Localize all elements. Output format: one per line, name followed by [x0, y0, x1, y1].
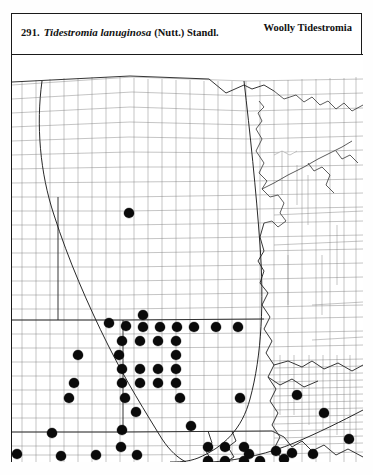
map-canvas: [12, 55, 363, 462]
occurrence-dot: [175, 393, 185, 403]
occurrence-dot: [121, 321, 131, 331]
occurrence-dot: [308, 449, 318, 459]
occurrence-dot: [220, 442, 230, 452]
occurrence-dot: [117, 378, 127, 388]
occurrence-dot: [153, 364, 163, 374]
occurrence-dots: [12, 208, 354, 462]
occurrence-dot: [114, 350, 124, 360]
occurrence-dot: [186, 421, 196, 431]
occurrence-dot: [64, 393, 74, 403]
page-frame: 291.Tidestromia lanuginosa(Nutt.) Standl…: [11, 13, 362, 462]
occurrence-dot: [117, 364, 127, 374]
occurrence-dot: [203, 442, 213, 452]
occurrence-dot: [203, 456, 213, 462]
occurrence-dot: [12, 449, 22, 459]
occurrence-dot: [153, 378, 163, 388]
occurrence-dot: [255, 456, 265, 462]
occurrence-dot: [138, 310, 148, 320]
occurrence-dot: [104, 318, 114, 328]
name-authority: (Nutt.) Standl.: [154, 27, 218, 38]
entry-number: 291.: [21, 27, 40, 38]
occurrence-dot: [132, 450, 142, 460]
occurrence-dot: [135, 378, 145, 388]
occurrence-dot: [319, 408, 329, 418]
atlas-page: 291.Tidestromia lanuginosa(Nutt.) Standl…: [0, 0, 373, 475]
occurrence-dot: [220, 456, 230, 462]
occurrence-dot: [138, 322, 148, 332]
occurrence-dot: [135, 364, 145, 374]
scientific-name: Tidestromia lanuginosa: [44, 26, 151, 38]
occurrence-dot: [124, 208, 134, 218]
occurrence-dot: [116, 442, 126, 452]
occurrence-dot: [155, 322, 165, 332]
occurrence-dot: [211, 322, 221, 332]
occurrence-dot: [235, 393, 245, 403]
occurrence-dot: [47, 428, 57, 438]
occurrence-dot: [271, 446, 281, 456]
occurrence-dot: [135, 336, 145, 346]
occurrence-dot: [117, 425, 127, 435]
occurrence-dot: [56, 451, 66, 461]
occurrence-dot: [287, 448, 297, 458]
occurrence-dot: [131, 407, 141, 417]
common-name: Woolly Tidestromia: [264, 22, 352, 33]
occurrence-dot: [69, 378, 79, 388]
occurrence-dot: [120, 393, 130, 403]
occurrence-dot: [171, 364, 181, 374]
occurrence-dot: [171, 350, 181, 360]
occurrence-dot: [239, 442, 249, 452]
occurrence-dot: [171, 336, 181, 346]
occurrence-dot: [233, 322, 243, 332]
occurrence-dot: [73, 350, 83, 360]
species-caption: 291.Tidestromia lanuginosa(Nutt.) Standl…: [12, 14, 361, 54]
occurrence-dot: [344, 434, 354, 444]
occurrence-dot: [117, 336, 127, 346]
occurrence-dot: [153, 336, 163, 346]
occurrence-dot: [172, 322, 182, 332]
county-grid: [12, 77, 363, 462]
occurrence-dot: [91, 450, 101, 460]
distribution-map: [12, 54, 363, 462]
occurrence-dot: [171, 378, 181, 388]
occurrence-dot: [292, 390, 302, 400]
occurrence-dot: [189, 322, 199, 332]
